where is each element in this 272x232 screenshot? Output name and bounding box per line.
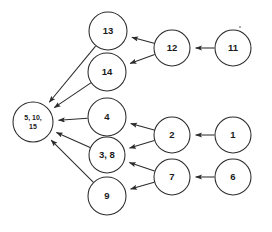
graph-node-n6[interactable]: 6	[215, 159, 251, 195]
edge-n2-to-n38	[130, 140, 155, 148]
node-label-n13: 13	[103, 25, 114, 36]
node-label-n11: 11	[228, 42, 239, 53]
diagram-canvas: 5, 10,15131443, 8912271116	[0, 0, 272, 232]
node-label-n6: 6	[230, 171, 235, 182]
nodes-layer: 5, 10,15131443, 8912271116	[13, 12, 251, 215]
node-label-n1: 1	[230, 129, 236, 140]
node-label-n9: 9	[104, 190, 109, 201]
graph-svg: 5, 10,15131443, 8912271116	[0, 0, 272, 232]
graph-node-n13[interactable]: 13	[89, 12, 127, 50]
graph-node-n38[interactable]: 3, 8	[89, 137, 125, 173]
edge-n12-to-n13	[132, 37, 154, 43]
edge-n4-to-hub	[59, 118, 88, 120]
node-label-n38: 3, 8	[99, 149, 115, 160]
edges-layer	[49, 37, 214, 189]
graph-node-n11[interactable]: 11	[215, 30, 251, 66]
graph-node-n1[interactable]: 1	[215, 117, 251, 153]
edge-n38-to-hub	[56, 132, 90, 147]
graph-node-n9[interactable]: 9	[88, 177, 126, 215]
edge-n2-to-n4	[131, 124, 154, 130]
graph-node-n7[interactable]: 7	[154, 159, 190, 195]
specks-layer	[239, 26, 241, 28]
node-label-n14: 14	[102, 66, 113, 77]
node-label-n2: 2	[169, 129, 174, 140]
graph-node-n4[interactable]: 4	[88, 98, 126, 136]
graph-node-n2[interactable]: 2	[154, 117, 190, 153]
node-label-n4: 4	[104, 111, 110, 122]
node-label-n12: 12	[167, 42, 178, 53]
edge-n14-to-hub	[54, 83, 91, 108]
graph-node-n12[interactable]: 12	[154, 30, 190, 66]
node-label-n7: 7	[169, 171, 174, 182]
scan-speck-0	[239, 26, 241, 28]
graph-node-n14[interactable]: 14	[88, 53, 126, 91]
edge-n7-to-n38	[129, 163, 154, 172]
graph-node-hub[interactable]: 5, 10,15	[13, 102, 53, 142]
edge-n7-to-n9	[131, 182, 155, 189]
edge-n12-to-n14	[130, 54, 155, 63]
